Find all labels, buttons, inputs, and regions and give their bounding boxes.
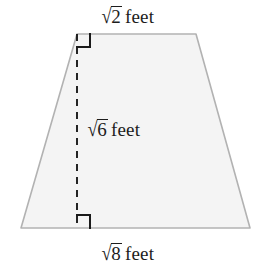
top-base-length-label: √2 feet	[100, 6, 154, 26]
trapezoid-figure: √2 feet √6 feet √8 feet	[0, 0, 269, 276]
radical-expression: √2	[100, 6, 122, 26]
unit-label: feet	[111, 119, 140, 140]
bottom-base-length-label: √8 feet	[100, 243, 154, 263]
radical-expression: √6	[86, 119, 108, 139]
radicand-value: 6	[97, 119, 108, 139]
unit-label: feet	[125, 6, 154, 27]
radical-sign-icon: √	[101, 5, 111, 26]
radicand-value: 8	[111, 243, 122, 263]
height-length-label: √6 feet	[86, 119, 140, 139]
radical-sign-icon: √	[101, 242, 111, 263]
radical-expression: √8	[100, 243, 122, 263]
radical-sign-icon: √	[87, 118, 97, 139]
unit-label: feet	[125, 243, 154, 264]
radicand-value: 2	[111, 6, 122, 26]
